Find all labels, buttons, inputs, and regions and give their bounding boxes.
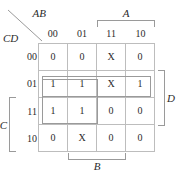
variable-label-a: A: [97, 7, 155, 19]
kmap-cell: 0: [68, 44, 97, 71]
bracket-c: [9, 97, 16, 152]
kmap-cell: X: [97, 71, 126, 98]
row-header-2: 11: [16, 98, 37, 125]
kmap-cell: X: [97, 44, 126, 71]
column-header-0: 00: [38, 27, 67, 41]
column-header-2: 11: [97, 27, 126, 41]
kmap-cell: 1: [126, 71, 155, 98]
column-header-1: 01: [67, 27, 96, 41]
kmap-cell: 0: [97, 125, 126, 152]
karnaugh-map: AB CD 00 01 11 10 00 01 11 10 0 0 X 0 1 …: [0, 0, 182, 179]
kmap-cell: 0: [97, 98, 126, 125]
kmap-cell: X: [68, 125, 97, 152]
bracket-b: [68, 153, 126, 160]
kmap-cell: 0: [39, 125, 68, 152]
row-header-1: 01: [16, 70, 37, 97]
row-header-0: 00: [16, 43, 37, 70]
kmap-grid: 0 0 X 0 1 1 X 1 1 1 0 0 0 X 0 0: [38, 43, 155, 152]
kmap-cell: 1: [39, 98, 68, 125]
variable-label-c: C: [0, 97, 9, 152]
bracket-d: [158, 70, 165, 126]
row-header-column: 00 01 11 10: [16, 43, 37, 152]
kmap-cell: 0: [126, 125, 155, 152]
variable-label-d: D: [165, 70, 177, 126]
kmap-cell: 1: [39, 71, 68, 98]
row-header-3: 10: [16, 125, 37, 152]
bracket-a: [97, 20, 155, 27]
variable-label-b: B: [68, 160, 126, 172]
kmap-cell: 0: [39, 44, 68, 71]
kmap-cell: 0: [126, 98, 155, 125]
column-header-row: 00 01 11 10: [38, 27, 155, 41]
kmap-cell: 1: [68, 98, 97, 125]
column-variable-label: AB: [33, 8, 46, 19]
kmap-cell: 0: [126, 44, 155, 71]
column-header-3: 10: [126, 27, 155, 41]
kmap-cell: 1: [68, 71, 97, 98]
